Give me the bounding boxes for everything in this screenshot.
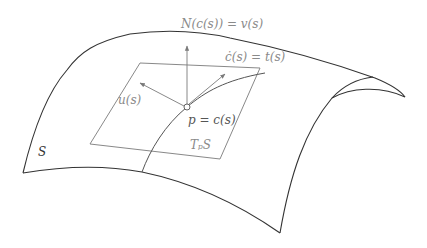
diagram-canvas: N(c(s)) = v(s) ċ(s) = t(s) u(s) p = c(s)… [0,0,427,248]
normal-label: N(c(s)) = v(s) [181,18,263,30]
tangent-label: ċ(s) = t(s) [225,51,285,63]
tangent-plane-label: TₚS [190,139,211,151]
conormal-label: u(s) [118,94,141,106]
tangent-plane [90,63,260,159]
surface-outline [23,31,405,233]
point-label: p = c(s) [188,114,236,126]
conormal-vector-arrow [140,83,184,106]
surface-label: S [38,146,46,158]
tangent-vector-arrow [189,74,225,104]
point-p [184,104,190,110]
